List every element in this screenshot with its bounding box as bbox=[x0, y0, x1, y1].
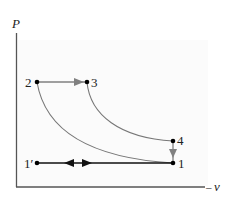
point-2 bbox=[35, 80, 40, 85]
x-axis-dash: – bbox=[205, 181, 212, 193]
pv-diagram: P – v 2 3 4 1 1′ bbox=[0, 0, 236, 201]
point-4 bbox=[171, 139, 176, 144]
y-axis-label: P bbox=[11, 16, 20, 31]
label-3: 3 bbox=[91, 75, 98, 90]
label-1: 1 bbox=[178, 156, 185, 171]
x-axis-label: v bbox=[214, 179, 220, 194]
label-2: 2 bbox=[25, 75, 32, 90]
label-1prime: 1′ bbox=[24, 156, 34, 171]
label-4: 4 bbox=[177, 133, 184, 148]
point-1prime bbox=[35, 161, 40, 166]
point-1 bbox=[171, 161, 176, 166]
point-3 bbox=[85, 80, 90, 85]
